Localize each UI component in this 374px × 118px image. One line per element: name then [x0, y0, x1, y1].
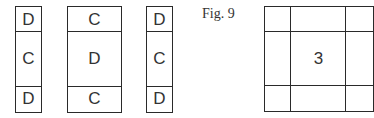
- figure-caption: Fig. 9: [202, 6, 235, 22]
- strip-3: D C D: [146, 6, 173, 113]
- strip-3-bottom: D: [147, 86, 172, 112]
- strip-2-middle: D: [68, 31, 121, 87]
- strip-2-top: C: [68, 7, 121, 32]
- strip-2-bottom: C: [68, 86, 121, 112]
- grid-center-label: 3: [291, 32, 346, 86]
- strip-1: D C D: [15, 6, 42, 113]
- strip-1-middle: C: [16, 31, 41, 87]
- strip-1-top: D: [16, 7, 41, 32]
- strip-3-top: D: [147, 7, 172, 32]
- strip-3-middle: C: [147, 31, 172, 87]
- strip-1-bottom: D: [16, 86, 41, 112]
- assembled-grid: 3: [264, 6, 374, 112]
- strip-2: C D C: [67, 6, 122, 113]
